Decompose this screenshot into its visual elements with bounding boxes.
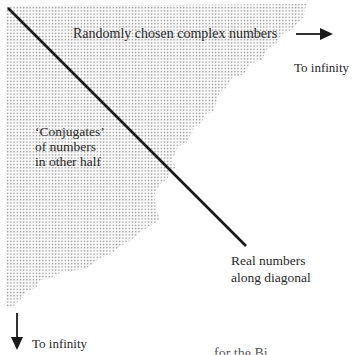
left-region-label-line2: of numbers bbox=[35, 139, 96, 154]
top-region-label: Randomly chosen complex numbers bbox=[73, 26, 277, 41]
diagonal-label-line1: Real numbers bbox=[231, 253, 306, 268]
cut-off-caption: ... for the Bi bbox=[200, 346, 268, 355]
matrix-diagram bbox=[0, 0, 353, 355]
diagonal-label-line2: along diagonal bbox=[231, 270, 311, 285]
down-arrow-label: To infinity bbox=[32, 336, 87, 351]
left-region-label-line1: ‘Conjugates’ bbox=[35, 124, 105, 139]
arrow-right-icon bbox=[296, 28, 333, 40]
arrow-down-icon bbox=[11, 313, 23, 350]
right-arrow-label: To infinity bbox=[294, 60, 349, 75]
left-region-label-line3: in other half bbox=[35, 154, 101, 169]
